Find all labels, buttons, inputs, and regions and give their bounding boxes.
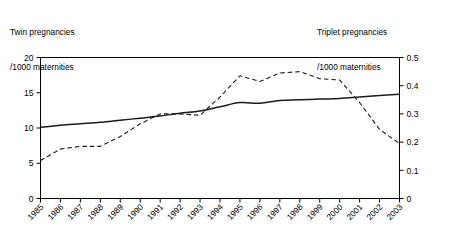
right-axis-tick-label: 0.3: [407, 109, 419, 119]
x-axis-tick-label: 1985: [25, 202, 45, 222]
x-axis-tick-label: 2000: [324, 202, 344, 222]
x-axis-tick-label: 2003: [384, 202, 404, 222]
x-axis-tick-label: 1992: [165, 202, 185, 222]
series-layer: [41, 72, 400, 161]
right-axis-tick-label: 0.2: [407, 137, 419, 147]
left-axis-tick-label: 20: [24, 53, 34, 63]
tick-labels-layer: 0510152000.10.20.30.40.51985198619871988…: [24, 53, 419, 222]
right-axis-tick-label: 0.5: [407, 53, 419, 63]
x-axis-tick-label: 1991: [145, 202, 165, 222]
right-axis-tick-label: 0: [407, 194, 412, 204]
x-axis-tick-label: 1998: [285, 202, 305, 222]
left-axis-tick-label: 0: [29, 194, 34, 204]
triplet-series-line: [41, 72, 400, 161]
x-axis-tick-label: 1989: [105, 202, 125, 222]
x-axis-tick-label: 1997: [265, 202, 285, 222]
x-axis-tick-label: 1993: [185, 202, 205, 222]
x-axis-tick-label: 1994: [205, 202, 225, 222]
x-axis-tick-label: 1986: [45, 202, 65, 222]
right-axis-tick-label: 0.1: [407, 166, 419, 176]
x-axis-tick-label: 1987: [65, 202, 85, 222]
left-axis-tick-label: 15: [24, 88, 34, 98]
right-axis-tick-label: 0.4: [407, 81, 419, 91]
x-axis-tick-label: 1995: [225, 202, 245, 222]
x-axis-tick-label: 1999: [305, 202, 325, 222]
x-axis-tick-label: 2001: [344, 202, 364, 222]
x-axis-tick-label: 2002: [364, 202, 384, 222]
chart-plot-area: 0510152000.10.20.30.40.51985198619871988…: [0, 0, 451, 239]
x-axis-tick-label: 1990: [125, 202, 145, 222]
left-axis-tick-label: 10: [24, 123, 34, 133]
chart-container: Twin pregnancies /1000 maternities Tripl…: [0, 0, 451, 239]
x-axis-tick-label: 1988: [85, 202, 105, 222]
axes-layer: [37, 58, 404, 203]
x-axis-tick-label: 1996: [245, 202, 265, 222]
left-axis-tick-label: 5: [29, 158, 34, 168]
twin-series-line: [41, 94, 400, 127]
